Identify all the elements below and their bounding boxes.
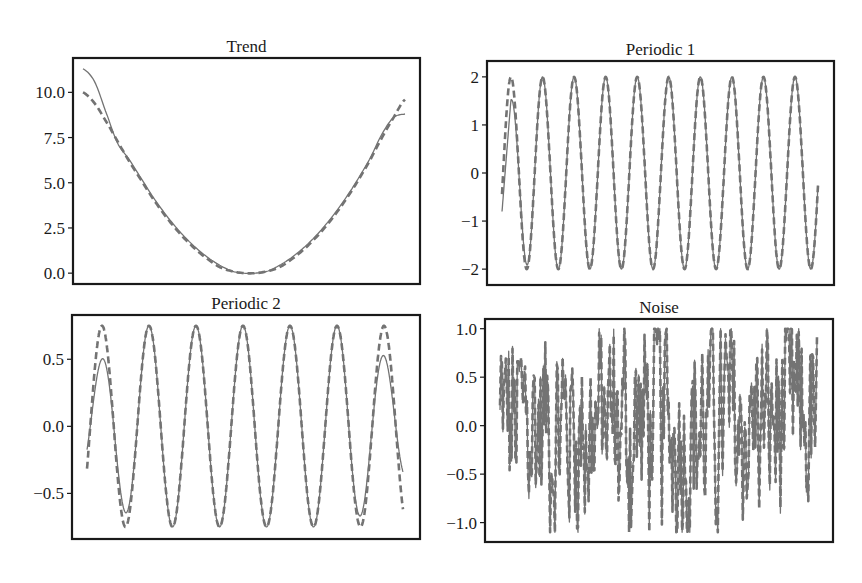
noise-subplot: Noise −1.0−0.50.00.51.0 [446, 298, 833, 542]
noise-y-axis: −1.0−0.50.00.51.0 [446, 320, 485, 533]
periodic2-fitted-line [87, 326, 403, 527]
y-tick-label: −1.0 [446, 514, 477, 533]
y-tick-label: 10.0 [35, 83, 65, 102]
trend-title: Trend [227, 37, 267, 56]
trend-fitted-line [83, 92, 405, 273]
trend-lines [83, 69, 405, 274]
y-tick-label: 0 [471, 164, 480, 183]
y-tick-label: 0.5 [43, 350, 64, 369]
periodic1-subplot: Periodic 1 −2−1012 [461, 40, 834, 285]
periodic1-actual-line [502, 77, 818, 269]
y-tick-label: 7.5 [44, 129, 65, 148]
periodic2-frame [72, 315, 420, 539]
noise-title: Noise [639, 298, 679, 317]
y-tick-label: 5.0 [44, 174, 65, 193]
figure: Trend 0.02.55.07.510.0 Periodic 1 −2−101… [0, 0, 862, 583]
y-tick-label: −2 [461, 260, 479, 279]
periodic2-y-axis: −0.50.00.5 [33, 350, 72, 503]
noise-fitted-line [500, 329, 817, 533]
periodic1-lines [502, 77, 818, 269]
y-tick-label: 1 [471, 116, 480, 135]
trend-subplot: Trend 0.02.55.07.510.0 [35, 37, 420, 284]
y-tick-label: 1.0 [456, 320, 477, 339]
trend-actual-line [83, 69, 405, 274]
y-tick-label: −0.5 [33, 484, 64, 503]
noise-lines [500, 329, 817, 533]
periodic1-fitted-line [502, 77, 818, 269]
y-tick-label: 0.5 [456, 368, 477, 387]
y-tick-label: 2.5 [44, 219, 65, 238]
y-tick-label: 0.0 [44, 264, 65, 283]
trend-frame [73, 58, 420, 284]
periodic1-y-axis: −2−1012 [461, 68, 487, 279]
y-tick-label: −1 [461, 212, 479, 231]
periodic2-title: Periodic 2 [211, 294, 280, 313]
periodic1-title: Periodic 1 [626, 40, 695, 59]
y-tick-label: 0.0 [456, 417, 477, 436]
y-tick-label: −0.5 [446, 465, 477, 484]
y-tick-label: 2 [471, 68, 480, 87]
y-tick-label: 0.0 [43, 417, 64, 436]
periodic2-subplot: Periodic 2 −0.50.00.5 [33, 294, 420, 539]
periodic2-lines [87, 326, 403, 527]
trend-y-axis: 0.02.55.07.510.0 [35, 83, 73, 283]
